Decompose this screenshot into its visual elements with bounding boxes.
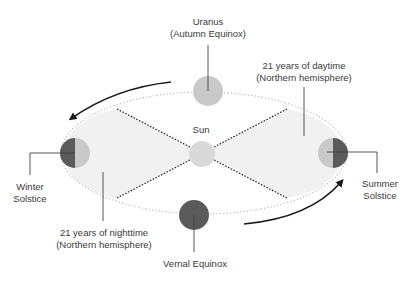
winter-label-line2: Solstice <box>6 193 54 205</box>
sun-label: Sun <box>186 124 216 136</box>
summer-label-line1: Summer <box>356 178 404 190</box>
daytime-label-line1: 21 years of daytime <box>254 60 354 72</box>
uranus-seasons-diagram: Uranus (Autumn Equinox) 21 years of dayt… <box>0 0 411 283</box>
summer-label-line2: Solstice <box>356 190 404 202</box>
daytime-label: 21 years of daytime (Northern hemisphere… <box>254 60 354 84</box>
nighttime-label-line1: 21 years of nighttime <box>52 227 156 239</box>
winter-solstice-label: Winter Solstice <box>6 181 54 205</box>
sun-icon <box>189 141 215 167</box>
summer-solstice-label: Summer Solstice <box>356 178 404 202</box>
uranus-label: Uranus (Autumn Equinox) <box>160 16 256 40</box>
winter-label-line1: Winter <box>6 181 54 193</box>
uranus-label-line2: (Autumn Equinox) <box>160 28 256 40</box>
daytime-label-line2: (Northern hemisphere) <box>254 72 354 84</box>
nighttime-label: 21 years of nighttime (Northern hemisphe… <box>52 227 156 251</box>
vernal-equinox-label: Vernal Equinox <box>150 258 240 270</box>
planet-summer-solstice-icon <box>318 138 348 168</box>
uranus-label-line1: Uranus <box>160 16 256 28</box>
nighttime-label-line2: (Northern hemisphere) <box>52 239 156 251</box>
